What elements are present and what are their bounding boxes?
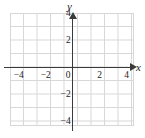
x-tick-label: 2 [97,71,102,81]
y-tick-label: −2 [60,90,71,100]
x-tick-label: 0 [66,71,71,81]
x-tick-label: 4 [124,71,129,81]
y-tick-label: 2 [60,36,71,46]
x-axis-label: x [136,62,141,73]
x-axis-line [4,67,132,68]
x-tick-label: −4 [14,71,24,81]
coordinate-plane-figure: x y −4−202442−2−4 [0,0,145,138]
y-tick-label: −4 [60,117,71,127]
y-tick-label: 4 [60,9,71,19]
y-axis-line [72,18,73,131]
x-tick-label: −2 [41,71,51,81]
